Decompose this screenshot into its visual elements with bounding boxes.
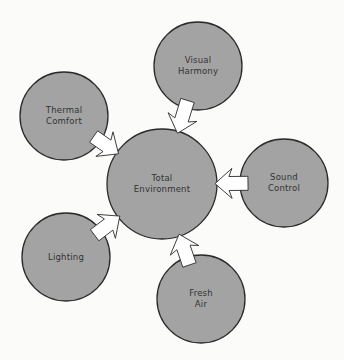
node-label-fresh-air: Fresh Air: [189, 288, 213, 310]
arrow-icon-visual-harmony: [168, 98, 197, 133]
node-label-sound-control: Sound Control: [268, 172, 300, 194]
center-label: Total Environment: [134, 173, 190, 195]
arrow-icon-fresh-air: [170, 234, 198, 267]
node-label-thermal-comfort: Thermal Comfort: [46, 105, 82, 127]
environment-diagram: Total Environment Visual Harmony Thermal…: [0, 0, 344, 360]
node-label-visual-harmony: Visual Harmony: [178, 55, 218, 77]
node-label-lighting: Lighting: [48, 252, 84, 263]
